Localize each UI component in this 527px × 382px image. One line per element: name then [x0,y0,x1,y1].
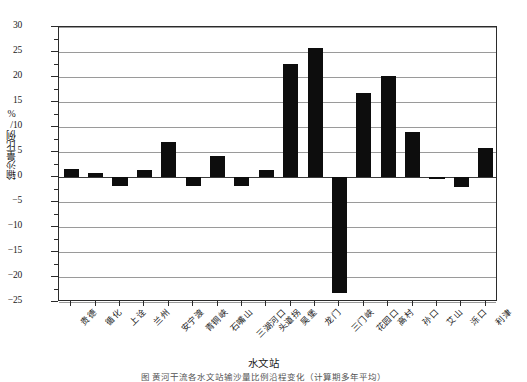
bar [210,156,225,178]
x-tick-mark [143,301,144,306]
bar [88,173,103,178]
bar-series [59,27,496,300]
x-tick-label: 高村 [397,308,416,327]
x-tick-mark [290,301,291,306]
x-tick-mark [460,301,461,306]
x-tick-label: 循化 [104,308,123,327]
x-tick-mark [70,301,71,306]
y-tick-label: −20 [8,271,22,281]
x-tick-mark [314,301,315,306]
y-tick-mark [51,101,58,102]
x-tick-mark [168,301,169,306]
bar [478,148,493,177]
y-tick-label: −15 [8,246,22,256]
y-tick-label: −5 [12,196,22,206]
y-tick-label: 0 [17,171,22,181]
bar [283,64,298,177]
x-tick-label: 三门峡 [350,308,375,333]
bar [332,177,347,293]
bar [405,132,420,177]
y-tick-label: 15 [13,96,22,106]
x-tick-mark [217,301,218,306]
bar [112,177,127,186]
y-tick-mark [51,201,58,202]
y-tick-label: 25 [13,46,22,56]
plot-area [58,26,497,301]
bar [454,177,469,187]
bar [381,76,396,178]
y-tick-mark [51,76,58,77]
y-tick-mark [51,226,58,227]
y-tick-mark [51,251,58,252]
y-tick-mark [51,151,58,152]
x-axis: 水文站 贵德循化上诠兰州安宁渡青铜峡石嘴山三湖河口头道拐吴堡龙门三门峡花园口高村… [0,301,527,382]
bar [308,48,323,177]
x-tick-mark [338,301,339,306]
bar [137,170,152,178]
x-tick-mark [436,301,437,306]
x-tick-mark [485,301,486,306]
bar [161,142,176,178]
x-tick-mark [95,301,96,306]
x-tick-label: 贵德 [79,308,98,327]
x-tick-mark [119,301,120,306]
y-tick-label: 30 [13,21,22,31]
bar [356,93,371,177]
y-tick-mark [51,176,58,177]
x-tick-label: 石嘴山 [228,308,253,333]
x-tick-mark [363,301,364,306]
bar [64,169,79,178]
figure-caption: 图 黄河干流各水文站输沙量比例沿程变化（计算期多年平均） [0,373,527,382]
bar [429,177,444,179]
x-tick-label: 吴堡 [299,308,318,327]
y-tick-mark [51,276,58,277]
chart-figure: 输沙量比例/% 302520151050−5−10−15−20−25 水文站 贵… [0,0,527,382]
y-tick-label: 20 [13,71,22,81]
x-tick-mark [412,301,413,306]
x-tick-label: 安宁渡 [180,308,205,333]
y-tick-label: 10 [13,121,22,131]
bar [259,170,274,178]
x-tick-label: 艾山 [445,308,464,327]
x-tick-label: 泺口 [470,308,489,327]
x-tick-mark [192,301,193,306]
x-tick-label: 龙门 [323,308,342,327]
y-tick-mark [51,26,58,27]
y-tick-label: −10 [8,221,22,231]
x-tick-label: 孙口 [421,308,440,327]
x-tick-mark [387,301,388,306]
x-tick-mark [265,301,266,306]
x-tick-label: 利津 [494,308,513,327]
y-tick-mark [51,51,58,52]
x-tick-mark [241,301,242,306]
x-tick-label: 上诠 [128,308,147,327]
x-axis-title: 水文站 [0,355,527,370]
bar [234,177,249,186]
y-tick-mark [51,126,58,127]
x-tick-label: 兰州 [153,308,172,327]
y-tick-label: 5 [17,146,22,156]
bar [186,177,201,186]
x-tick-label: 青铜峡 [204,308,229,333]
